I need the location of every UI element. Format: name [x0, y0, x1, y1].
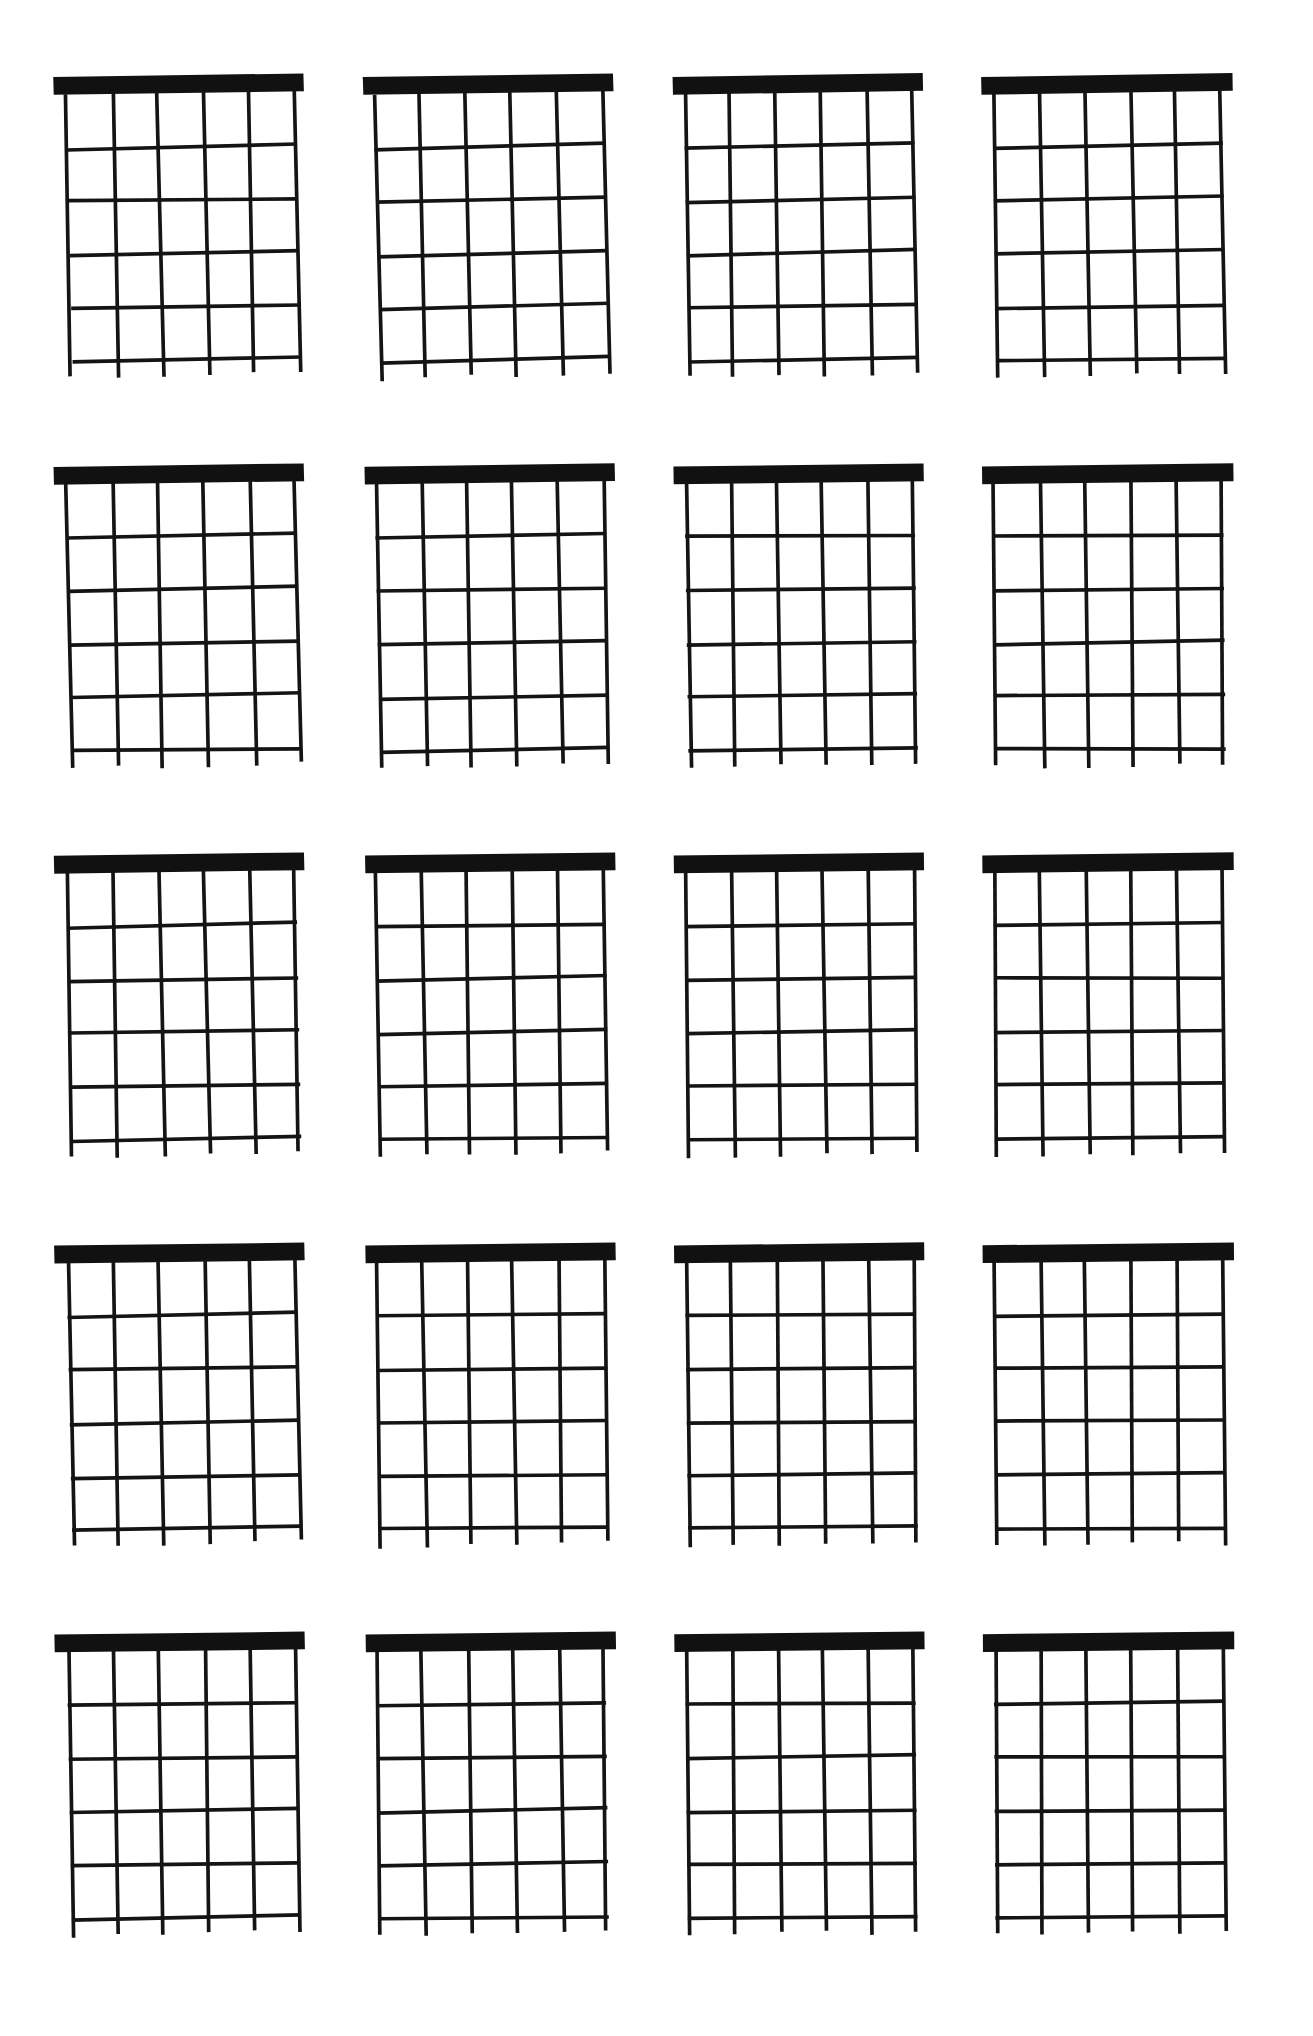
chord-diagram[interactable] [40, 1606, 348, 1996]
chord-diagram-canvas [348, 48, 656, 438]
fret-line [687, 1473, 917, 1476]
nut-bar [982, 853, 1234, 874]
chord-chart-sheet [0, 0, 1313, 2036]
chord-diagram[interactable] [965, 1217, 1273, 1607]
chord-diagram[interactable] [40, 438, 348, 828]
chord-diagram[interactable] [348, 1217, 656, 1607]
string-line [686, 1650, 689, 1935]
chord-diagram[interactable] [348, 48, 656, 438]
nut-bar [981, 73, 1233, 96]
fret-line [377, 585, 607, 593]
string-line [602, 868, 608, 1151]
string-line [62, 94, 73, 376]
string-line [1177, 1649, 1179, 1935]
string-line [1176, 1259, 1179, 1541]
chord-name-label[interactable] [348, 827, 656, 845]
chord-diagram-canvas [657, 1606, 965, 1996]
fret-line [685, 532, 915, 539]
chord-name-label[interactable] [40, 48, 348, 66]
chord-name-label[interactable] [965, 827, 1273, 845]
fret-line [380, 747, 609, 752]
chord-name-label[interactable] [965, 1606, 1273, 1624]
chord-name-label[interactable] [657, 438, 965, 456]
chord-name-label[interactable] [657, 827, 965, 845]
nut-bar [54, 460, 305, 487]
fret-line [378, 639, 607, 646]
chord-diagram[interactable] [348, 1606, 656, 1996]
string-line [775, 1260, 780, 1546]
chord-name-label[interactable] [348, 48, 656, 66]
chord-name-label[interactable] [40, 438, 348, 456]
chord-diagram[interactable] [657, 1606, 965, 1996]
chord-name-label[interactable] [657, 48, 965, 66]
fret-line [993, 923, 1223, 926]
chord-diagram[interactable] [40, 827, 348, 1217]
fret-line [685, 924, 915, 928]
chord-name-label[interactable] [657, 1606, 965, 1624]
chord-diagram[interactable] [657, 438, 965, 828]
chord-name-label[interactable] [40, 1217, 348, 1235]
fret-line [994, 1810, 1224, 1812]
chord-diagram[interactable] [965, 827, 1273, 1217]
chord-diagram[interactable] [348, 827, 656, 1217]
string-line [249, 868, 256, 1154]
string-line [110, 872, 120, 1158]
chord-diagram[interactable] [657, 1217, 965, 1607]
fret-line [687, 303, 916, 309]
chord-diagram[interactable] [40, 1217, 348, 1607]
chord-diagram-canvas [40, 1217, 348, 1607]
string-line [776, 870, 780, 1157]
chord-name-label[interactable] [40, 1606, 348, 1624]
chord-diagram-canvas [965, 48, 1273, 438]
chord-diagram[interactable] [657, 827, 965, 1217]
chord-diagram[interactable] [657, 48, 965, 438]
string-line [513, 1649, 518, 1933]
chord-diagram[interactable] [965, 48, 1273, 438]
fret-line [995, 305, 1225, 310]
string-line [993, 871, 998, 1157]
string-line [601, 87, 613, 373]
chord-name-label[interactable] [657, 1217, 965, 1235]
string-line [731, 1650, 735, 1935]
string-line [155, 481, 165, 768]
fret-line [70, 1028, 299, 1036]
chord-diagram[interactable] [348, 438, 656, 828]
string-line [158, 871, 166, 1157]
string-line [511, 480, 519, 766]
chord-name-label[interactable] [348, 1606, 656, 1624]
chord-name-label[interactable] [348, 1217, 656, 1235]
chord-name-label[interactable] [40, 827, 348, 845]
string-line [203, 870, 210, 1154]
string-line [468, 1650, 473, 1934]
fret-line [376, 532, 606, 538]
fret-line [68, 1701, 298, 1708]
chord-name-label[interactable] [965, 48, 1273, 66]
fret-line [687, 1916, 917, 1919]
string-line [112, 1651, 119, 1935]
fret-line [69, 1364, 299, 1372]
string-line [1176, 480, 1180, 764]
chord-name-label[interactable] [965, 1217, 1273, 1235]
string-line [603, 1258, 610, 1541]
string-line [466, 1260, 473, 1544]
chord-name-label[interactable] [348, 438, 656, 456]
string-line [911, 479, 917, 764]
chord-diagram[interactable] [40, 48, 348, 438]
fret-line [377, 1755, 607, 1760]
string-line [1130, 1649, 1132, 1932]
string-line [1130, 870, 1134, 1156]
string-line [822, 1259, 826, 1543]
string-line [422, 1261, 428, 1548]
string-line [421, 482, 429, 766]
chord-name-label[interactable] [965, 438, 1273, 456]
fret-line [688, 357, 917, 362]
chord-diagram[interactable] [965, 1606, 1273, 1996]
fret-line [993, 533, 1223, 538]
fret-line [994, 1702, 1224, 1705]
fret-line [688, 747, 917, 751]
nut-bar [365, 461, 616, 487]
chord-diagram[interactable] [965, 438, 1273, 828]
fret-line [376, 922, 606, 928]
fret-line [685, 1702, 915, 1706]
nut-bar [54, 1240, 305, 1266]
